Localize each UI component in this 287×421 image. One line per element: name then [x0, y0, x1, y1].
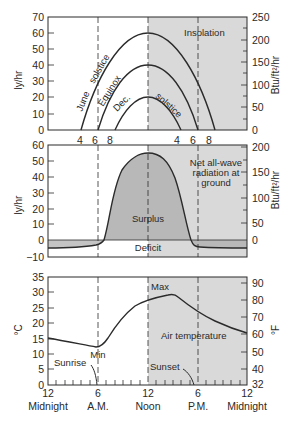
- ylabel-ly-hr-middle: ly/hr: [13, 195, 24, 215]
- y-tick-25: 25: [32, 302, 44, 314]
- x-tick-6pm: 6: [195, 387, 201, 399]
- y-tick-10: 10: [32, 218, 44, 230]
- y2-tick-40: 40: [252, 363, 264, 375]
- y-tick-10: 10: [32, 348, 44, 360]
- y-tick-0: 0: [38, 234, 44, 246]
- ylabel-celsius: °C: [13, 324, 24, 335]
- x-tick-sunset-8: 8: [206, 134, 212, 146]
- y-tick-70: 70: [32, 11, 44, 23]
- y2-tick-0: 0: [252, 234, 258, 246]
- radiation-temperature-chart: 70 60 50 40 30 20 10 0 250 200 150 100 5…: [0, 0, 287, 421]
- y2-tick-50: 50: [252, 101, 264, 113]
- y-tick-30: 30: [32, 286, 44, 298]
- y2-tick-32: 32: [252, 378, 264, 390]
- x-period-midnight-start: Midnight: [28, 400, 68, 412]
- y-tick-40: 40: [32, 171, 44, 183]
- label-min: Min: [90, 349, 105, 360]
- x-period-am: A.M.: [87, 400, 109, 412]
- y2-tick-100: 100: [252, 79, 270, 91]
- x-tick-sunset-6: 6: [190, 134, 196, 146]
- y2-tick-100: 100: [252, 192, 270, 204]
- y-tick-60: 60: [32, 139, 44, 151]
- label-dec: Dec.: [111, 92, 133, 114]
- y2-tick-150: 150: [252, 166, 270, 178]
- y-tick-20: 20: [32, 91, 44, 103]
- y2-tick-50: 50: [252, 217, 264, 229]
- x-period-midnight-end: Midnight: [227, 400, 267, 412]
- x-tick-sunrise-4: 4: [77, 134, 83, 146]
- x-tick-sunrise-8: 8: [107, 134, 113, 146]
- net-radiation-panel: 60 50 40 30 20 10 0 −10 200 150 100 50 0…: [13, 139, 281, 263]
- ylabel-ly-hr-top: ly/hr: [13, 70, 24, 90]
- y-tick-20: 20: [32, 203, 44, 215]
- y2-tick-60: 60: [252, 328, 264, 340]
- y2-tick-50: 50: [252, 346, 264, 358]
- y2label-fahrenheit: °F: [270, 325, 281, 335]
- label-air-temperature: Air temperature: [161, 330, 226, 341]
- x-tick-sunset-4: 4: [174, 134, 180, 146]
- y-tick-5: 5: [38, 363, 44, 375]
- x-tick-midnight-end: 12: [241, 387, 253, 399]
- y2-tick-250: 250: [252, 11, 270, 23]
- y-tick-minus-10: −10: [26, 251, 44, 263]
- y-tick-60: 60: [32, 27, 44, 39]
- y-tick-50: 50: [32, 43, 44, 55]
- label-surplus: Surplus: [132, 213, 164, 224]
- insolation-panel: 70 60 50 40 30 20 10 0 250 200 150 100 5…: [13, 11, 281, 146]
- y-tick-30: 30: [32, 75, 44, 87]
- y-tick-15: 15: [32, 333, 44, 345]
- y-tick-30: 30: [32, 187, 44, 199]
- x-tick-noon: 12: [142, 387, 154, 399]
- label-insolation: Insolation: [184, 27, 225, 38]
- air-temperature-panel: 35 30 25 20 15 10 5 0 90 80 70 60 50 40 …: [13, 271, 281, 412]
- y2-tick-150: 150: [252, 56, 270, 68]
- y-tick-20: 20: [32, 317, 44, 329]
- y-tick-50: 50: [32, 155, 44, 167]
- x-tick-sunrise-6: 6: [92, 134, 98, 146]
- label-sunrise: Sunrise: [54, 357, 86, 368]
- y-tick-40: 40: [32, 59, 44, 71]
- y2label-btu-top: Btu/ft²/hr: [270, 55, 281, 94]
- label-deficit: Deficit: [135, 242, 162, 253]
- x-period-pm: P.M.: [188, 400, 208, 412]
- label-max: Max: [151, 281, 169, 292]
- y-tick-0: 0: [38, 124, 44, 136]
- y2-tick-70: 70: [252, 311, 264, 323]
- y2-tick-200: 200: [252, 34, 270, 46]
- y2-tick-80: 80: [252, 294, 264, 306]
- y2-tick-200: 200: [252, 141, 270, 153]
- label-sunset: Sunset: [150, 361, 180, 372]
- x-tick-6am: 6: [95, 387, 101, 399]
- y-tick-35: 35: [32, 271, 44, 283]
- sunrise-pointer: [91, 365, 97, 385]
- x-tick-midnight-start: 12: [42, 387, 54, 399]
- y2-tick-0: 0: [252, 124, 258, 136]
- y-tick-10: 10: [32, 108, 44, 120]
- y2label-btu-middle: Btu/ft²/hr: [270, 170, 281, 209]
- label-june: June: [74, 90, 92, 113]
- x-period-noon: Noon: [135, 400, 160, 412]
- label-net-line3: ground: [201, 177, 231, 188]
- y2-tick-90: 90: [252, 277, 264, 289]
